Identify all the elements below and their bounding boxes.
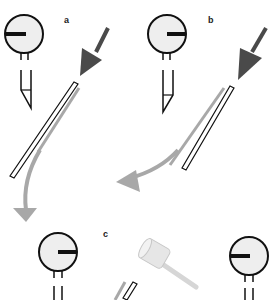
panel-label-c: c <box>103 229 108 239</box>
gauge-a <box>5 15 43 60</box>
gauge-c-right <box>230 237 268 300</box>
panel-label-a: a <box>64 15 69 25</box>
panel-label-b: b <box>208 15 214 25</box>
dark-arrow-a <box>80 28 108 76</box>
needle-a <box>10 82 79 178</box>
gauge-c-left <box>39 233 77 300</box>
diagram-canvas <box>0 0 277 300</box>
syringe-b <box>163 70 173 112</box>
needle-c <box>115 282 137 300</box>
syringe-a <box>21 70 31 108</box>
curved-arrow-a <box>13 150 40 222</box>
hammer <box>136 237 196 287</box>
curved-arrow-b <box>116 150 178 192</box>
needle-b <box>170 86 234 170</box>
dark-arrow-b <box>238 28 266 80</box>
gauge-b <box>148 15 186 60</box>
